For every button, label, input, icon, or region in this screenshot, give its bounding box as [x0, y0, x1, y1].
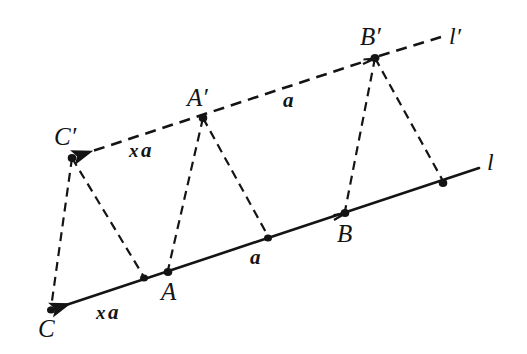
point-Aprime — [199, 114, 208, 122]
label-vector-lower-xa: xa — [96, 302, 119, 323]
point-Cprime — [68, 154, 77, 162]
point-B — [341, 209, 350, 217]
point-C — [47, 306, 55, 313]
point-Bprime — [371, 54, 380, 62]
point-P2 — [439, 179, 448, 187]
label-point-Cprime: C′ — [54, 124, 76, 149]
label-vector-upper-xa-x: x — [129, 140, 141, 161]
label-vector-upper-a: a — [283, 90, 294, 111]
line-l-prime — [76, 37, 441, 157]
label-vector-upper-xa: xa — [129, 140, 152, 161]
label-point-A: A — [161, 279, 176, 304]
label-vector-lower-xa-a: a — [108, 300, 119, 324]
figure-canvas: C′ A′ B′ C A B l l′ xa a xa a — [0, 0, 527, 354]
connector-lines — [51, 58, 443, 308]
label-point-Aprime: A′ — [187, 85, 208, 110]
label-line-l-prime: l′ — [449, 24, 461, 48]
label-point-B: B — [337, 221, 352, 246]
label-point-Bprime: B′ — [360, 24, 381, 49]
label-vector-lower-a: a — [250, 247, 261, 268]
connector-Cprime-P1 — [72, 158, 144, 277]
label-vector-upper-xa-a: a — [141, 138, 152, 162]
point-A — [164, 268, 173, 276]
point-P1 — [140, 274, 148, 281]
point-M — [264, 234, 272, 241]
label-vector-lower-xa-x: x — [96, 302, 108, 323]
connector-Bprime-P2 — [375, 58, 443, 181]
geometry-diagram — [0, 0, 527, 354]
connector-Cprime-C — [51, 158, 72, 308]
line-l-prime-extension — [379, 37, 441, 56]
label-vector-upper-a-a: a — [283, 88, 294, 112]
connector-Aprime-M — [203, 118, 268, 236]
label-line-l: l — [487, 150, 494, 174]
label-vector-lower-a-a: a — [250, 245, 261, 269]
connector-Bprime-B — [345, 58, 375, 211]
line-l-prime-stroke — [76, 57, 378, 157]
label-point-C: C — [38, 316, 55, 341]
vertex-dots — [47, 54, 447, 314]
connector-Aprime-A — [168, 118, 203, 270]
